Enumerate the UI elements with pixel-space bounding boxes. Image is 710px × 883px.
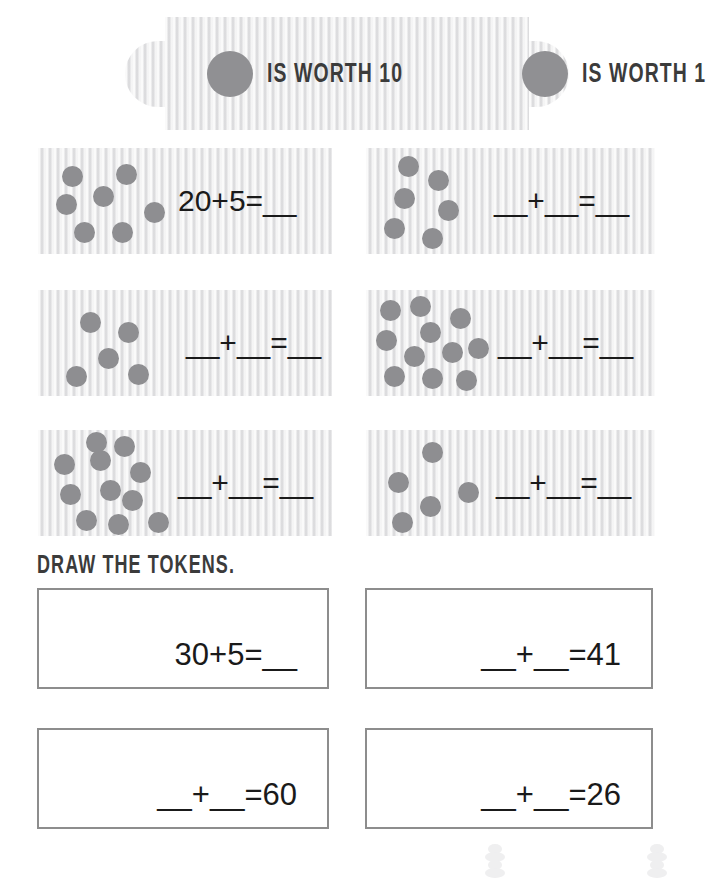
token-dots-group <box>366 148 494 254</box>
token-dot <box>76 510 97 531</box>
token-dot <box>422 442 443 463</box>
token-dot <box>86 432 107 453</box>
token-bank-1: 20+5=__ <box>38 148 332 254</box>
token-dot <box>388 472 409 493</box>
token-bank-5: __+__=__ <box>38 430 332 536</box>
token-dot <box>438 200 459 221</box>
token-dot <box>384 218 405 239</box>
token-dot <box>60 484 81 505</box>
token-dot <box>66 366 87 387</box>
equation-6: __+__=__ <box>496 466 631 500</box>
token-stack-icon <box>646 843 668 879</box>
token-bank-2: __+__=__ <box>366 148 655 254</box>
legend-item-ten: IS WORTH 10 <box>207 51 456 97</box>
token-dot <box>108 514 129 535</box>
token-dot <box>148 512 169 533</box>
token-dot <box>404 346 425 367</box>
token-bank-3: __+__=__ <box>38 290 332 396</box>
token-dot <box>98 348 119 369</box>
token-circle-icon <box>522 51 568 97</box>
token-dot <box>420 322 441 343</box>
token-stack-icon <box>484 843 506 879</box>
token-dot <box>398 156 419 177</box>
token-dot <box>62 166 83 187</box>
token-dots-group <box>366 290 498 396</box>
token-circle-icon <box>207 51 253 97</box>
token-dot <box>420 496 441 517</box>
token-dots-group <box>38 148 178 254</box>
token-dot <box>80 312 101 333</box>
token-dots-group <box>366 430 496 536</box>
token-dot <box>442 342 463 363</box>
token-dot <box>100 480 121 501</box>
token-dot <box>122 490 143 511</box>
draw-box-1[interactable]: 30+5=__ <box>37 588 329 689</box>
token-dot <box>376 330 397 351</box>
legend: IS WORTH 10 IS WORTH 1 <box>165 17 569 130</box>
token-dot <box>410 296 431 317</box>
draw-equation-1: 30+5=__ <box>175 637 297 673</box>
draw-box-4[interactable]: __+__=26 <box>365 728 653 829</box>
token-bank-6: __+__=__ <box>366 430 655 536</box>
token-dot <box>116 164 137 185</box>
token-dot <box>384 366 405 387</box>
token-dot <box>450 308 471 329</box>
token-dot <box>130 462 151 483</box>
draw-tokens-heading: DRAW THE TOKENS. <box>37 552 235 577</box>
legend-banner: IS WORTH 10 IS WORTH 1 <box>125 17 569 130</box>
legend-item-one: IS WORTH 1 <box>522 51 710 97</box>
token-dot <box>74 222 95 243</box>
token-dot <box>90 450 111 471</box>
token-dot <box>422 368 443 389</box>
token-dot <box>394 188 415 209</box>
token-dot <box>456 370 477 391</box>
token-dot <box>118 322 139 343</box>
token-dot <box>422 228 443 249</box>
draw-equation-4: __+__=26 <box>481 777 621 813</box>
token-dots-group <box>38 430 178 536</box>
token-dot <box>380 300 401 321</box>
legend-label-one: IS WORTH 1 <box>582 60 706 87</box>
token-dot <box>93 186 114 207</box>
draw-box-2[interactable]: __+__=41 <box>365 588 653 689</box>
draw-equation-3: __+__=60 <box>157 777 297 813</box>
token-dot <box>458 482 479 503</box>
token-dots-group <box>38 290 186 396</box>
token-dot <box>392 512 413 533</box>
equation-1: 20+5=__ <box>178 184 296 218</box>
token-bank-4: __+__=__ <box>366 290 655 396</box>
draw-box-3[interactable]: __+__=60 <box>37 728 329 829</box>
token-dot <box>468 338 489 359</box>
token-dot <box>56 194 77 215</box>
token-dot <box>54 454 75 475</box>
token-dot <box>128 364 149 385</box>
legend-label-ten: IS WORTH 10 <box>267 60 403 87</box>
token-dot <box>114 436 135 457</box>
equation-2: __+__=__ <box>494 184 629 218</box>
equation-5: __+__=__ <box>178 466 313 500</box>
token-dot <box>428 170 449 191</box>
draw-equation-2: __+__=41 <box>481 637 621 673</box>
equation-3: __+__=__ <box>186 326 321 360</box>
equation-4: __+__=__ <box>498 326 633 360</box>
token-dot <box>144 202 165 223</box>
token-dot <box>112 222 133 243</box>
